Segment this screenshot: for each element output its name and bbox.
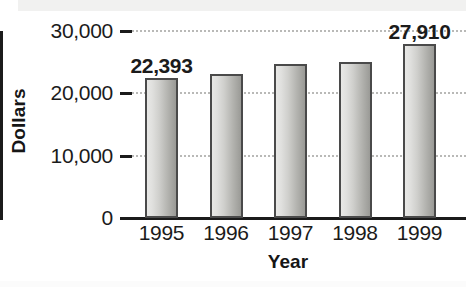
- y-axis-line: [0, 31, 3, 220]
- page-bottom-band: [0, 281, 466, 287]
- y-axis-tick-label: 0: [0, 206, 113, 230]
- page-top-band: [18, 0, 466, 11]
- bar-1995[interactable]: [145, 78, 178, 218]
- x-axis-tick-label-1996: 1996: [203, 221, 249, 245]
- bar-1999[interactable]: [403, 44, 436, 218]
- y-axis-tick: [120, 92, 132, 95]
- y-axis-tick-label: 30,000: [0, 19, 113, 43]
- y-axis-tick: [120, 155, 132, 158]
- bar-value-label-1999: 27,910: [389, 20, 451, 44]
- x-axis-tick-label-1998: 1998: [332, 221, 378, 245]
- bar-chart-figure: 30,00020,00010,0000 22,39327,910 1995199…: [0, 0, 466, 287]
- x-axis-tick-label-1995: 1995: [139, 221, 185, 245]
- bar-1996[interactable]: [210, 74, 243, 218]
- y-axis-tick: [120, 30, 132, 33]
- bar-1997[interactable]: [274, 64, 307, 218]
- y-axis-title: Dollars: [8, 66, 30, 176]
- bar-value-label-1995: 22,393: [131, 54, 193, 78]
- x-axis-title: Year: [0, 251, 466, 273]
- bar-1998[interactable]: [339, 62, 372, 218]
- x-axis-tick-label-1999: 1999: [397, 221, 443, 245]
- x-axis-tick-label-1997: 1997: [268, 221, 314, 245]
